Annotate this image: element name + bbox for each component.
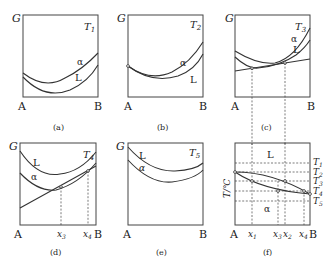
- x4-label: x4: [83, 229, 92, 240]
- melting-point-a: [234, 171, 237, 174]
- alpha-label: α: [291, 34, 297, 44]
- axis-a-label: A: [230, 100, 240, 113]
- temperature-label: T5: [189, 147, 201, 160]
- temperature-label: T3: [295, 21, 307, 34]
- panel-e: G T5 L α A B (e): [116, 140, 207, 257]
- panel-caption: (e): [156, 248, 167, 257]
- liquid-label: L: [293, 44, 300, 55]
- panel-b: G T2 α L A B (b): [117, 12, 207, 132]
- melting-point-b: [309, 193, 312, 196]
- axis-a-label: A: [229, 228, 239, 241]
- alpha-label: α: [139, 163, 145, 173]
- axis-a-label: A: [123, 100, 133, 113]
- alpha-curve: [128, 42, 203, 76]
- tie-point: [277, 190, 280, 193]
- panel-f: T/℃ L α T1 T2 T3 T4 T5 A x1 x3 x2 x4 B: [222, 143, 323, 257]
- x1-label: x1: [248, 229, 257, 240]
- x3-label: x3: [273, 229, 282, 240]
- alpha-label: α: [77, 57, 83, 67]
- axis-g-label: G: [12, 12, 21, 25]
- axis-g-label: G: [225, 12, 234, 25]
- temperature-label: T1: [84, 21, 95, 34]
- liquid-label: L: [75, 72, 82, 83]
- liquid-label: L: [190, 74, 197, 85]
- x2-label: x2: [283, 229, 292, 240]
- x3-label: x3: [57, 229, 66, 240]
- axis-b-label: B: [307, 100, 315, 113]
- panel-caption: (f): [263, 248, 272, 257]
- liquid-label: L: [33, 157, 40, 168]
- gibbs-energy-figure: G T1 α L A B (a) G T2 α L A B (b) G T3 α…: [0, 0, 333, 263]
- liquid-curve: [23, 65, 98, 93]
- axis-b-label: B: [309, 228, 317, 241]
- panel-d: G T4 L α A x3 x4 B (d): [9, 140, 102, 257]
- alpha-label: α: [180, 58, 186, 68]
- axis-a-label: A: [17, 100, 27, 113]
- common-point: [127, 65, 130, 68]
- axis-b-label: B: [199, 100, 207, 113]
- panel-caption: (a): [53, 123, 64, 132]
- tie-point: [251, 180, 254, 183]
- liquid-region-label: L: [267, 149, 274, 160]
- axis-g-label: G: [117, 12, 126, 25]
- tie-point: [284, 180, 287, 183]
- axis-a-label: A: [122, 228, 132, 241]
- liquid-label: L: [139, 150, 146, 161]
- axis-b-label: B: [94, 100, 102, 113]
- axis-b-label: B: [94, 228, 102, 241]
- temperature-label: T2: [190, 19, 202, 32]
- axis-b-label: B: [199, 228, 207, 241]
- tie-point: [303, 190, 306, 193]
- panel-a: G T1 α L A B (a): [12, 12, 102, 132]
- panel-c: G T3 α L A B (c): [225, 12, 315, 145]
- alpha-region-label: α: [264, 204, 270, 214]
- panel-caption: (d): [50, 248, 61, 257]
- axis-g-label: G: [116, 140, 125, 153]
- temperature-axis-label: T/℃: [222, 178, 232, 198]
- panel-caption: (c): [261, 123, 272, 132]
- axis-a-label: A: [13, 228, 23, 241]
- axis-g-label: G: [9, 140, 18, 153]
- panel-caption: (b): [157, 123, 168, 132]
- alpha-label: α: [31, 172, 37, 182]
- t5-label: T5: [313, 196, 323, 207]
- x4-label: x4: [299, 229, 308, 240]
